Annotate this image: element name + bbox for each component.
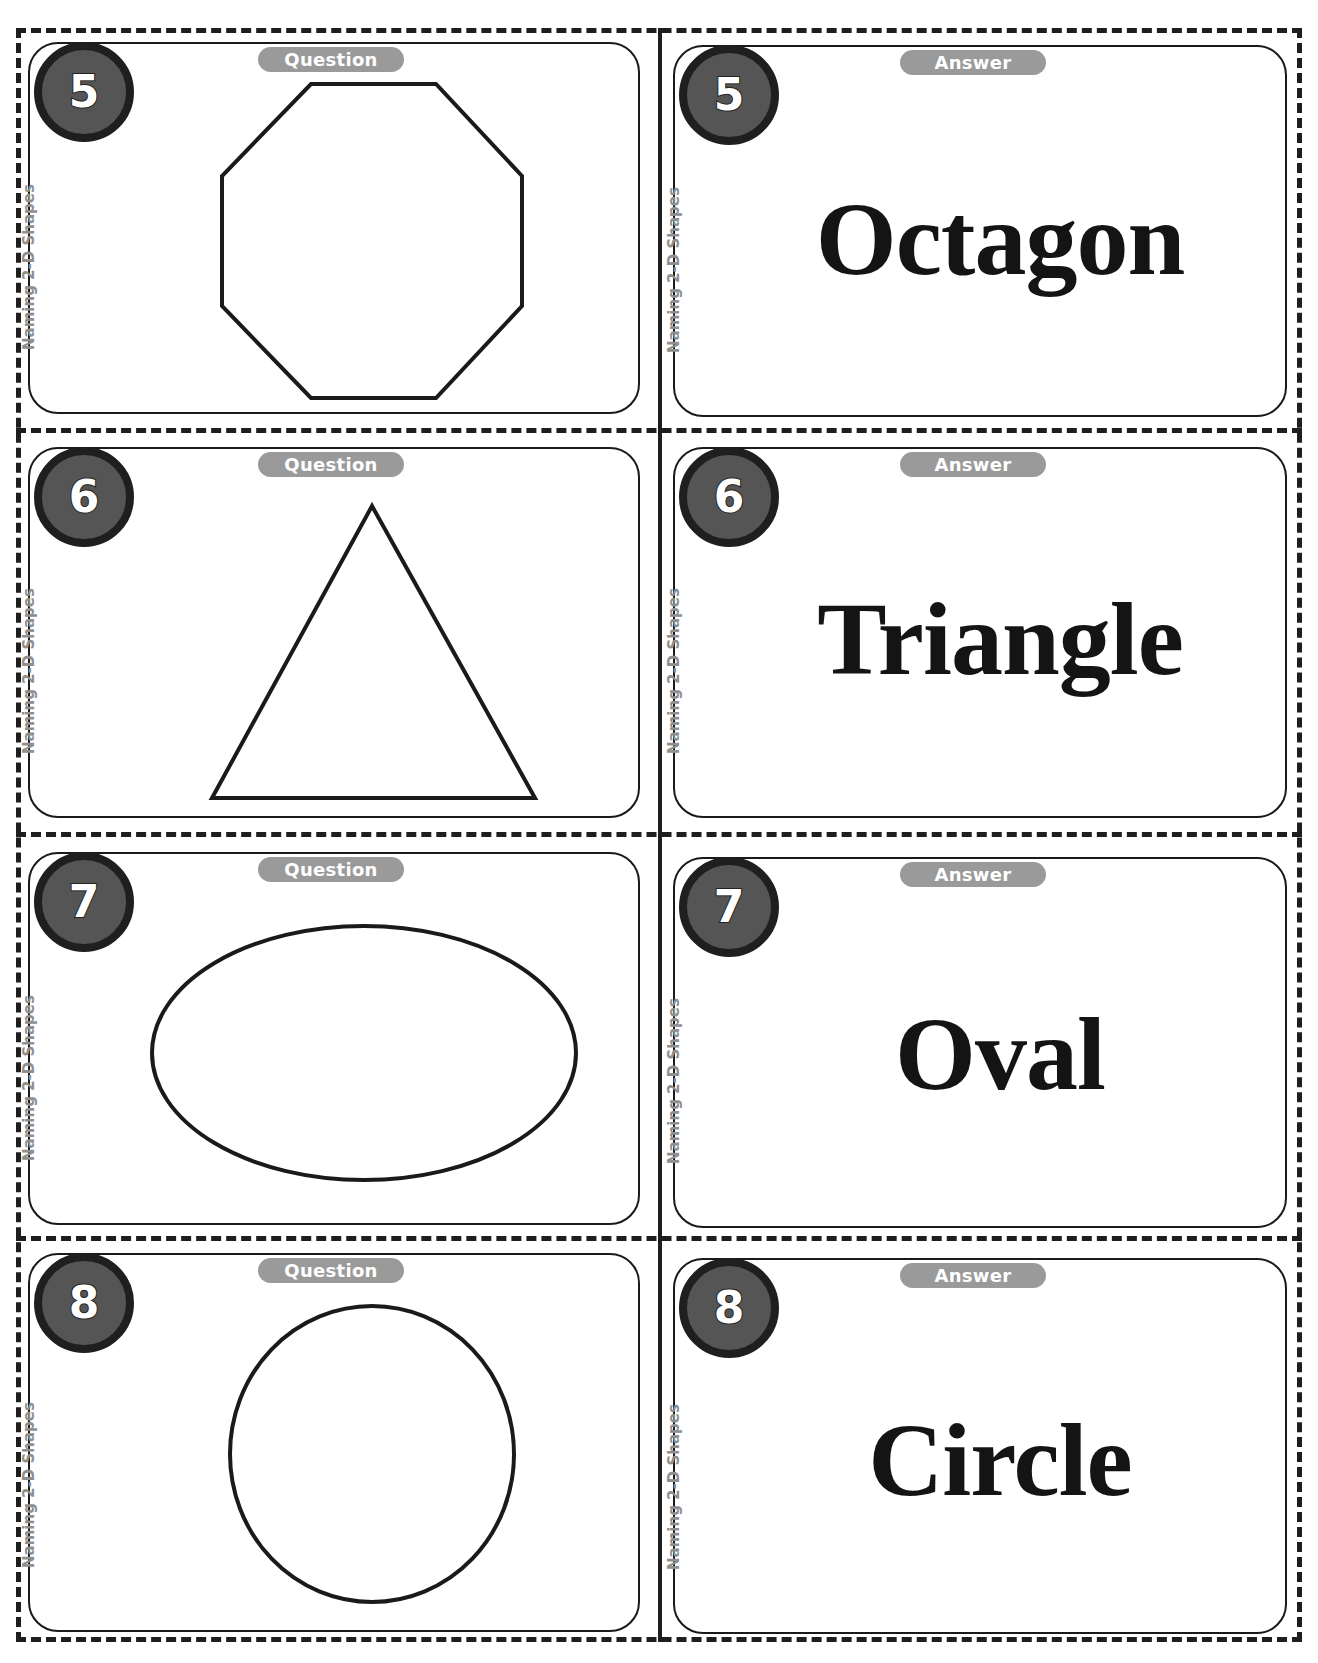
cut-line-row-3 <box>16 1236 1302 1241</box>
topic-label: Naming 2-D Shapes <box>665 588 683 754</box>
card-number: 6 <box>714 475 745 519</box>
answer-text: Oval <box>715 1002 1285 1106</box>
card-number-badge: 8 <box>679 1258 779 1358</box>
card-number: 7 <box>714 885 745 929</box>
answer-pill: Answer <box>900 50 1046 75</box>
topic-label: Naming 2-D Shapes <box>665 998 683 1164</box>
cut-line-row-2 <box>16 832 1302 837</box>
question-card-7: Question 7 Naming 2-D Shapes <box>28 852 640 1225</box>
card-number-badge: 7 <box>679 857 779 957</box>
answer-text: Circle <box>715 1408 1285 1512</box>
question-card-6: Question 6 Naming 2-D Shapes <box>28 447 640 818</box>
answer-pill: Answer <box>900 862 1046 887</box>
circle-shape <box>30 1255 642 1634</box>
question-card-8: Question 8 Naming 2-D Shapes <box>28 1253 640 1632</box>
answer-card-8: Answer 8 Naming 2-D Shapes Circle <box>673 1258 1287 1634</box>
triangle-shape <box>30 449 642 820</box>
topic-label: Naming 2-D Shapes <box>665 187 683 353</box>
card-number: 5 <box>714 73 745 117</box>
question-card-5: Question 5 Naming 2-D Shapes <box>28 42 640 414</box>
answer-pill: Answer <box>900 1263 1046 1288</box>
answer-text: Triangle <box>715 587 1285 691</box>
oval-shape <box>30 854 642 1227</box>
octagon-shape <box>30 44 642 416</box>
card-number-badge: 6 <box>679 447 779 547</box>
answer-card-7: Answer 7 Naming 2-D Shapes Oval <box>673 857 1287 1228</box>
answer-text: Octagon <box>715 187 1285 291</box>
cut-line-row-1 <box>16 428 1302 433</box>
answer-pill: Answer <box>900 452 1046 477</box>
card-number-badge: 5 <box>679 45 779 145</box>
card-number: 8 <box>714 1286 745 1330</box>
answer-card-6: Answer 6 Naming 2-D Shapes Triangle <box>673 447 1287 818</box>
answer-card-5: Answer 5 Naming 2-D Shapes Octagon <box>673 45 1287 417</box>
topic-label: Naming 2-D Shapes <box>665 1404 683 1570</box>
